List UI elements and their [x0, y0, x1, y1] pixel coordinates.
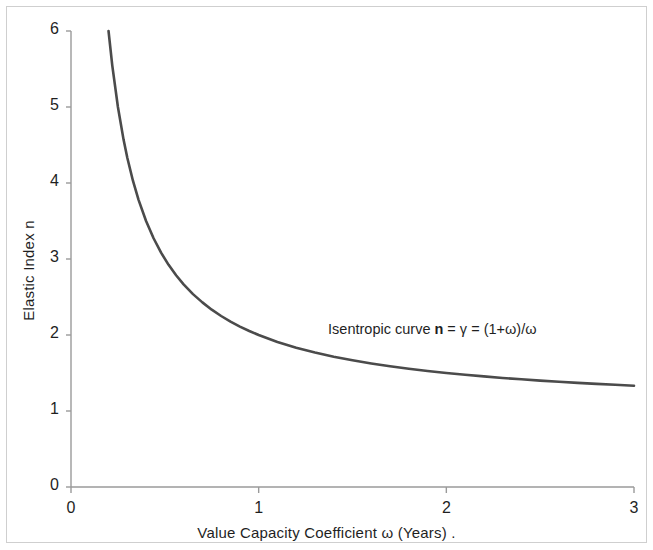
y-tick-label: 4 — [37, 172, 59, 190]
y-tick-label: 6 — [37, 20, 59, 38]
y-tick-label: 5 — [37, 96, 59, 114]
annotation-suffix: = γ = (1+ω)/ω — [443, 321, 536, 337]
y-tick-label: 3 — [37, 248, 59, 266]
x-tick-label: 1 — [244, 499, 274, 517]
plot-area — [0, 0, 653, 550]
y-tick-label: 0 — [37, 476, 59, 494]
y-axis-ticks — [66, 31, 71, 487]
x-axis-ticks — [71, 487, 634, 493]
axes-group — [71, 31, 634, 487]
isentropic-curve-chart — [0, 0, 653, 550]
annotation-symbol: n — [434, 321, 443, 337]
x-tick-label: 0 — [56, 499, 86, 517]
x-tick-label: 3 — [619, 499, 649, 517]
y-tick-label: 1 — [37, 400, 59, 418]
x-tick-label: 2 — [431, 499, 461, 517]
chart-page: 0123456 0123 Isentropic curve n = γ = (1… — [0, 0, 653, 550]
annotation-prefix: Isentropic curve — [328, 321, 434, 337]
y-axis-title: Elastic Index n — [20, 171, 37, 371]
y-tick-label: 2 — [37, 324, 59, 342]
curve-annotation: Isentropic curve n = γ = (1+ω)/ω — [328, 321, 536, 337]
x-axis-title: Value Capacity Coefficient ω (Years) . — [0, 524, 653, 541]
